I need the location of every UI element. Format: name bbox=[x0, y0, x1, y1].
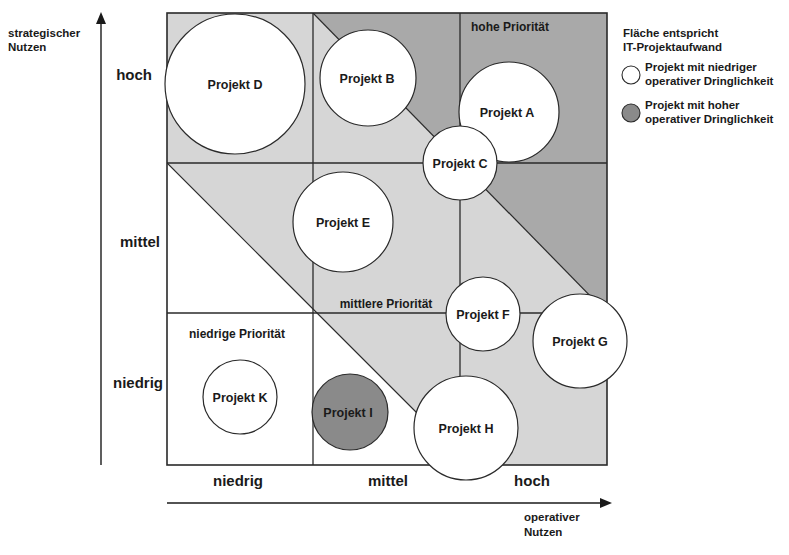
project-b-label: Projekt B bbox=[340, 72, 395, 86]
high-urgency-swatch-icon bbox=[622, 104, 640, 122]
legend-high-urgency-line2: operativer Dringlichkeit bbox=[645, 113, 774, 125]
y-axis-title-line1: strategischer bbox=[8, 27, 81, 39]
high-priority-label: hohe Priorität bbox=[471, 20, 549, 34]
x-axis-arrow-icon bbox=[600, 498, 612, 508]
legend-title-line2: IT-Projektaufwand bbox=[623, 41, 722, 53]
y-level-medium: mittel bbox=[120, 233, 160, 250]
project-i-label: Projekt I bbox=[323, 406, 372, 420]
legend: Fläche entspricht IT-Projektaufwand Proj… bbox=[622, 27, 774, 125]
medium-priority-label: mittlere Priorität bbox=[340, 297, 433, 311]
low-urgency-swatch-icon bbox=[622, 66, 640, 84]
project-d-label: Projekt D bbox=[208, 78, 263, 92]
project-g-label: Projekt G bbox=[552, 335, 608, 349]
low-priority-label: niedrige Priorität bbox=[189, 327, 285, 341]
x-level-medium: mittel bbox=[368, 472, 408, 489]
y-level-high: hoch bbox=[116, 66, 152, 83]
y-axis-arrow-icon bbox=[96, 12, 106, 24]
project-f-label: Projekt F bbox=[456, 308, 510, 322]
x-axis-title-line2: Nutzen bbox=[524, 526, 562, 538]
legend-low-urgency-line2: operativer Dringlichkeit bbox=[645, 75, 774, 87]
project-e-label: Projekt E bbox=[316, 216, 370, 230]
project-c-label: Projekt C bbox=[433, 157, 488, 171]
project-h-label: Projekt H bbox=[439, 422, 494, 436]
x-level-low: niedrig bbox=[213, 472, 263, 489]
x-axis-title-line1: operativer bbox=[524, 511, 580, 523]
legend-title-line1: Fläche entspricht bbox=[623, 27, 718, 39]
priority-portfolio-diagram: hohe Priorität mittlere Priorität niedri… bbox=[0, 0, 789, 555]
project-k-label: Projekt K bbox=[213, 391, 268, 405]
project-a-label: Projekt A bbox=[480, 106, 534, 120]
y-axis-title-line2: Nutzen bbox=[8, 41, 46, 53]
y-level-low: niedrig bbox=[113, 374, 163, 391]
legend-low-urgency-line1: Projekt mit niedriger bbox=[645, 61, 757, 73]
legend-high-urgency-line1: Projekt mit hoher bbox=[645, 99, 740, 111]
x-axis: niedrig mittel hoch operativer Nutzen bbox=[167, 472, 612, 538]
x-level-high: hoch bbox=[514, 472, 550, 489]
y-axis: strategischer Nutzen hoch mittel niedrig bbox=[8, 12, 163, 465]
